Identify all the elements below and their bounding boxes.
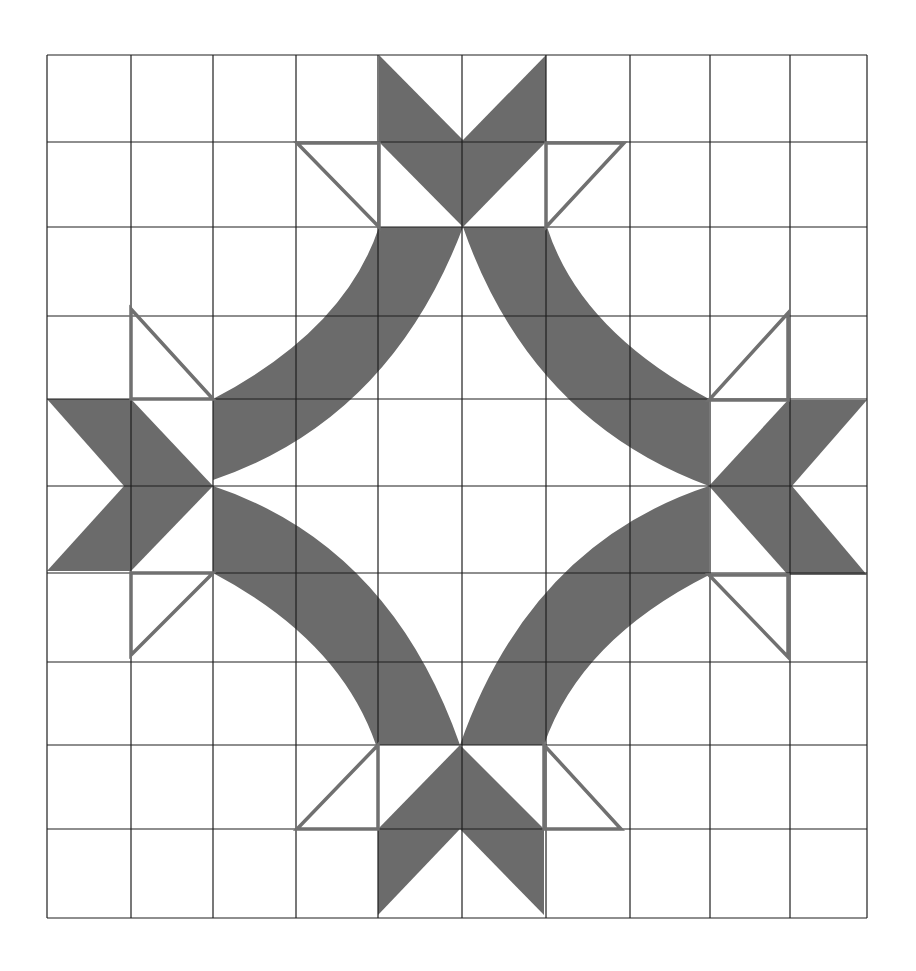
- arc-lower-right-band: [460, 486, 709, 745]
- bottom-star-blade-2: [460, 745, 544, 915]
- right-star-outline-triangle-1: [709, 313, 788, 400]
- right-star-blade-1: [709, 400, 867, 486]
- top-star-outline-triangle-2: [546, 143, 624, 227]
- right-star-outline-triangle-2: [709, 575, 788, 657]
- top-star-blade-1: [379, 55, 463, 227]
- bottom-star-outline-triangle-2: [544, 745, 621, 829]
- arc-upper-right-band: [463, 227, 709, 486]
- right-star-blade-2: [709, 486, 867, 575]
- filled-shapes: [47, 55, 867, 915]
- left-star-blade-2: [47, 486, 213, 571]
- bottom-star-blade-1: [378, 745, 460, 915]
- quilt-diagram: [0, 0, 916, 971]
- left-star-outline-triangle-1: [131, 309, 213, 399]
- top-star-blade-2: [463, 55, 546, 227]
- arc-upper-left-band: [213, 227, 463, 480]
- left-star-outline-triangle-2: [131, 573, 213, 655]
- arc-lower-left-band: [213, 486, 460, 745]
- left-star-blade-1: [47, 399, 213, 486]
- bottom-star-outline-triangle-1: [297, 745, 378, 829]
- top-star-outline-triangle-1: [297, 143, 379, 227]
